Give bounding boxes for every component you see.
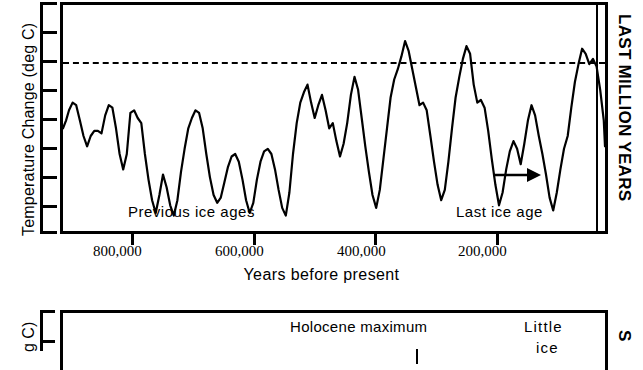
y-axis-title: Temperature Change (deg C) [20, 23, 38, 236]
x-axis-tick-label: 800,000 [93, 243, 142, 260]
temperature-curve [63, 5, 605, 231]
y-axis-tick [40, 118, 57, 121]
annotation-little: Little [524, 318, 563, 335]
y-axis-tick [40, 2, 57, 5]
y-axis-tick [40, 205, 57, 208]
y-axis-title-bottom: g C) [20, 322, 38, 352]
y-axis-tick [40, 310, 55, 313]
y-axis-tick [40, 60, 57, 63]
x-axis-title: Years before present [0, 266, 643, 284]
y-axis-tick [40, 176, 57, 179]
top-chart-panel: 800,000 600,000 400,000 200,000 Years be… [0, 0, 643, 290]
plot-area-top [60, 2, 608, 234]
y-axis-tick [40, 231, 57, 234]
x-axis-tick-label: 600,000 [215, 243, 264, 260]
y-axis-tick [40, 340, 55, 343]
y-axis-tick [40, 89, 57, 92]
y-axis-spine-bottom [40, 310, 43, 351]
panel-title-right: LAST MILLION YEARS [614, 14, 634, 201]
x-axis-tick-label: 400,000 [337, 243, 386, 260]
right-arrow-icon [493, 165, 543, 185]
y-axis-tick [40, 147, 57, 150]
x-axis-tick-label: 200,000 [458, 243, 507, 260]
annotation-ice: ice [536, 339, 559, 356]
annotation-previous-ice-ages: Previous ice ages [128, 203, 255, 220]
annotation-last-ice-age: Last ice age [456, 203, 543, 220]
annotation-holocene-maximum: Holocene maximum [290, 318, 427, 335]
y-axis-tick [40, 31, 57, 34]
bottom-chart-panel: Holocene maximum Little ice g C) S [0, 300, 643, 351]
holocene-pointer [416, 349, 418, 364]
panel-title-right-bottom: S [614, 330, 634, 341]
